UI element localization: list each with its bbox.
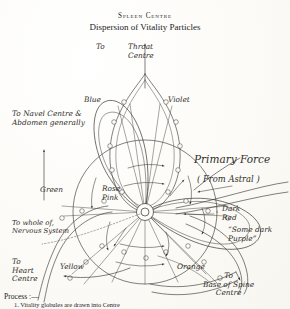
primary-force-path [176,158,288,215]
petal-right-outer [145,166,266,283]
outflow-heart-path [64,268,130,278]
outflow-navel-path [38,150,112,302]
process-line-1: 1. Vitality globules are drawn into Cent… [14,301,120,308]
radiating-spokes [62,104,228,284]
process-heading: Process :— [4,292,39,301]
process-footer: Process :— 1. Vitality globules are draw… [4,292,120,308]
petal-left-inner [72,107,181,212]
diagram-canvas [0,0,290,309]
centre-hub [137,204,154,221]
petal-top-inner [116,80,174,207]
outflow-spine-path [150,216,248,295]
